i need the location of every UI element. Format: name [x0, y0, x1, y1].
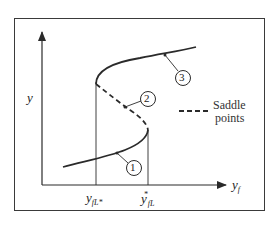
callout-2-leader: [125, 101, 141, 107]
callout-1-dot: [116, 152, 119, 155]
branch-2-curve: [96, 84, 148, 130]
tick-label-lower-turning-point: yfL*: [86, 191, 102, 207]
tick-label-upper-turning-point: y*fL: [141, 191, 154, 208]
x-axis-label: yf: [232, 178, 240, 194]
callout-2-number: 2: [144, 93, 150, 104]
legend-label: Saddle points: [213, 99, 246, 125]
tick-1-star: *: [98, 198, 102, 207]
callout-3-number: 3: [179, 72, 185, 83]
callout-2-dot: [124, 106, 127, 109]
legend-line-2: points: [215, 112, 246, 125]
callout-1-leader: [117, 153, 128, 163]
tick-2-star: *: [144, 190, 148, 199]
callout-1-number: 1: [130, 162, 136, 173]
callout-3-dot: [164, 54, 167, 57]
tick-2-sub: fL: [148, 199, 155, 208]
callout-3-leader: [165, 55, 178, 71]
y-axis-label: y: [27, 91, 33, 104]
x-axis-label-subscript: f: [238, 185, 240, 194]
